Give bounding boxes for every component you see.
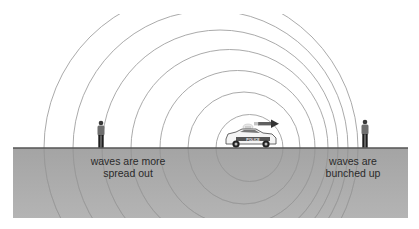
svg-text:POLICE: POLICE [246, 138, 260, 142]
person-right-icon [362, 120, 369, 148]
label-right-line2: bunched up [318, 167, 388, 179]
label-right-line1: waves are [318, 155, 388, 167]
label-left-line2: spread out [78, 167, 178, 179]
label-bunched-up: waves are bunched up [318, 155, 388, 179]
label-spread-out: waves are more spread out [78, 155, 178, 179]
police-car-icon: POLICE [226, 124, 276, 148]
label-left-line1: waves are more [78, 155, 178, 167]
doppler-diagram: POLICE [0, 0, 419, 229]
person-left-icon [98, 121, 105, 148]
